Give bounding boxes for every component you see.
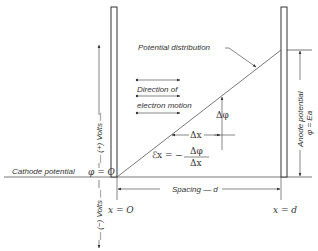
x-zero-label: x = O [108,205,134,215]
anode-phi-label: φ = Ea [305,110,314,135]
minus-volts-label: — (−) Volts — [95,189,104,241]
spacing-label: Spacing — d [172,185,218,194]
cathode-plate [111,7,117,177]
field-equation-lhs: ℰx = − [152,150,183,160]
delta-x-label: Δx [190,130,202,140]
field-equation-denominator: Δx [190,158,202,168]
direction-label-1: Direction of [137,85,178,94]
potential-distribution-label: Potential distribution [138,43,211,52]
anode-plate [281,7,287,177]
plus-volts-label: — (+) Volts — [95,112,104,164]
field-equation-numerator: Δφ [190,146,203,156]
x-d-label: x = d [273,205,297,215]
diagram-canvas: Potential distribution Direction of elec… [0,0,318,251]
potential-distribution-leader [225,48,256,67]
anode-potential-label: Anode potential [296,91,305,148]
delta-phi-label: Δφ [216,110,229,120]
phi-zero-label: φ = O [88,167,116,177]
cathode-potential-label: Cathode potential [12,167,75,176]
direction-label-2: electron motion [137,101,192,110]
